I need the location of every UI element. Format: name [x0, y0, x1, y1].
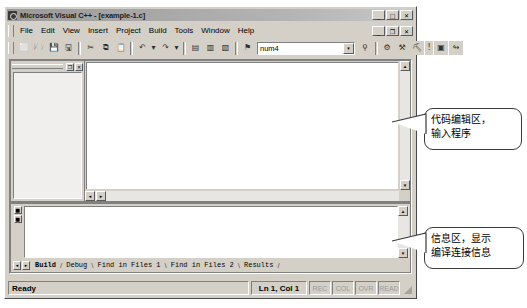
- scroll-left-icon: ◂: [16, 262, 19, 268]
- workspace-restore-icon: ❐: [68, 64, 72, 70]
- document-close-button[interactable]: ✕: [400, 26, 413, 36]
- code-editor-surface[interactable]: [86, 62, 398, 189]
- new-file-icon: ⬜: [18, 42, 30, 54]
- output-tab-strip: ◂ ▸ Build / Debug \ Find in Files 1 \ Fi…: [13, 259, 408, 271]
- editor-horizontal-scrollbar[interactable]: ◂ ▸: [85, 190, 399, 201]
- paste-icon: 📋: [115, 42, 127, 54]
- menu-item-window[interactable]: Window: [197, 25, 233, 36]
- save-button[interactable]: 💾: [47, 41, 61, 55]
- toolbar-drag-grip[interactable]: [8, 42, 14, 54]
- editor-scroll-up-button[interactable]: ▴: [400, 61, 410, 71]
- undo-icon: ↶: [137, 42, 149, 54]
- find-combo-value[interactable]: num4: [258, 44, 343, 53]
- tab-scroll-right-button[interactable]: ▸: [22, 261, 30, 270]
- editor-scroll-down-button[interactable]: ▾: [400, 180, 410, 190]
- cut-button[interactable]: ✂: [84, 41, 98, 55]
- toolbar-separator: [78, 42, 81, 55]
- workspace-restore-button[interactable]: ❐: [66, 63, 74, 71]
- compile-button[interactable]: ⚙: [380, 41, 394, 55]
- output-goto-error-button[interactable]: ■: [14, 206, 22, 214]
- menu-item-build[interactable]: Build: [145, 25, 171, 36]
- maximize-button[interactable]: □: [386, 10, 399, 20]
- editor-scroll-right-button[interactable]: ▸: [96, 191, 106, 201]
- scroll-right-icon: ▸: [25, 262, 28, 268]
- status-message: Ready: [8, 281, 249, 295]
- visual-cpp-icon[interactable]: [8, 11, 17, 20]
- menu-item-edit[interactable]: Edit: [37, 25, 59, 36]
- menu-drag-grip[interactable]: [8, 25, 14, 37]
- workspace-toggle-button[interactable]: ▤: [189, 41, 203, 55]
- menu-item-view[interactable]: View: [59, 25, 84, 36]
- callout-editor-tail: [392, 112, 432, 142]
- find-button[interactable]: ⚲: [358, 41, 372, 55]
- output-toggle-button[interactable]: ▥: [204, 41, 218, 55]
- tab-build[interactable]: Build: [31, 261, 60, 269]
- application-window: Microsoft Visual C++ - [example-1.c] _ □…: [4, 6, 417, 299]
- toolbar-separator: [235, 42, 238, 55]
- undo-button[interactable]: ↶: [136, 41, 150, 55]
- open-folder-icon: 🗁: [33, 42, 45, 54]
- document-window-controls: _ ❐ ✕: [372, 26, 413, 36]
- stop-build-icon: !: [425, 42, 433, 54]
- status-indicator-col: COL: [332, 281, 354, 295]
- find-combo-box[interactable]: num4 ▾: [257, 42, 355, 55]
- find-in-files-button[interactable]: ⚑: [241, 41, 255, 55]
- editor-window: ▴ ▾ ◂ ▸: [85, 61, 410, 201]
- menu-item-tools[interactable]: Tools: [171, 25, 198, 36]
- chevron-down-icon[interactable]: ▾: [343, 43, 354, 54]
- find-in-files-icon: ⚑: [242, 42, 254, 54]
- menu-item-help[interactable]: Help: [234, 25, 258, 36]
- tab-debug[interactable]: Debug: [62, 261, 91, 269]
- stop-build-button[interactable]: !: [425, 41, 433, 55]
- paste-button[interactable]: 📋: [114, 41, 128, 55]
- redo-dropdown-button[interactable]: ▾: [174, 41, 181, 55]
- chevron-down-icon: ▾: [151, 42, 157, 54]
- open-file-button[interactable]: 🗁: [32, 41, 46, 55]
- workspace-caption-bar: ❐ ✕: [12, 62, 83, 71]
- scroll-left-icon: ◂: [89, 193, 92, 199]
- cut-icon: ✂: [85, 42, 97, 54]
- go-debug-button[interactable]: ↬: [449, 41, 463, 55]
- close-button[interactable]: ✕: [400, 10, 413, 20]
- output-next-error-button[interactable]: ■: [14, 215, 22, 223]
- menu-item-file[interactable]: File: [16, 25, 37, 36]
- save-icon: 💾: [48, 42, 60, 54]
- output-goto-error-icon: ■: [15, 207, 20, 213]
- callout-editor-line2: 输入程序: [431, 127, 515, 141]
- callout-editor-line1: 代码编辑区，: [431, 113, 515, 127]
- status-indicator-ovr: OVR: [355, 281, 377, 295]
- workspace-tree-view[interactable]: [13, 72, 82, 199]
- tab-results[interactable]: Results: [240, 261, 277, 269]
- workspace-close-button[interactable]: ✕: [75, 63, 83, 71]
- workspace-caption-grip[interactable]: [12, 64, 63, 69]
- rebuild-all-button[interactable]: ⛏: [410, 41, 424, 55]
- build-icon: ⚒: [396, 42, 408, 54]
- watch-toggle-button[interactable]: ▧: [219, 41, 233, 55]
- redo-button[interactable]: ↷: [159, 41, 173, 55]
- tab-find-in-files-1[interactable]: Find in Files 1: [94, 261, 165, 269]
- minimize-icon: _: [373, 12, 384, 20]
- menu-bar: File Edit View Insert Project Build Tool…: [7, 23, 414, 38]
- window-title: Microsoft Visual C++ - [example-1.c]: [20, 11, 372, 20]
- execute-program-button[interactable]: ▣: [434, 41, 448, 55]
- output-text-surface[interactable]: [24, 206, 398, 258]
- menu-item-insert[interactable]: Insert: [84, 25, 112, 36]
- save-all-button[interactable]: 🖫: [62, 41, 76, 55]
- scroll-down-icon: ▾: [404, 182, 407, 188]
- resize-grip[interactable]: [401, 281, 413, 295]
- scroll-up-icon: ▴: [402, 208, 405, 214]
- build-button[interactable]: ⚒: [395, 41, 409, 55]
- document-restore-button[interactable]: ❐: [386, 26, 399, 36]
- new-file-button[interactable]: ⬜: [17, 41, 31, 55]
- chevron-down-icon: ▾: [174, 42, 180, 54]
- copy-button[interactable]: ⧉: [99, 41, 113, 55]
- tab-find-in-files-2[interactable]: Find in Files 2: [167, 261, 238, 269]
- minimize-button[interactable]: _: [372, 10, 385, 20]
- document-restore-icon: ❐: [387, 28, 398, 36]
- editor-scroll-left-button[interactable]: ◂: [85, 191, 95, 201]
- output-scroll-up-button[interactable]: ▴: [398, 206, 408, 216]
- document-minimize-button[interactable]: _: [372, 26, 385, 36]
- menu-item-project[interactable]: Project: [112, 25, 145, 36]
- undo-dropdown-button[interactable]: ▾: [151, 41, 158, 55]
- tab-scroll-left-button[interactable]: ◂: [13, 261, 21, 270]
